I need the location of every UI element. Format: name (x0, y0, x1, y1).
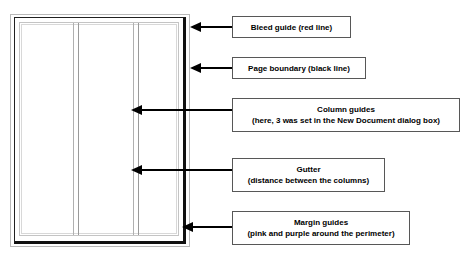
arrow-to-bleed-guide (190, 22, 232, 32)
column-guide-line-2a (133, 23, 134, 235)
column-guide-line-1a (73, 23, 74, 235)
callout-gutter: Gutter (distance between the columns) (232, 158, 385, 192)
margin-guide-inner-rect (21, 24, 177, 234)
callout-gutter-line2: (distance between the columns) (248, 175, 369, 186)
callout-column-guides-line1: Column guides (317, 104, 375, 115)
callout-page-boundary-line1: Page boundary (black line) (248, 63, 350, 74)
callout-margin-guides-line1: Margin guides (294, 217, 348, 228)
callout-column-guides: Column guides (here, 3 was set in the Ne… (232, 98, 460, 132)
column-guide-line-1b (78, 23, 79, 235)
callout-bleed-guide: Bleed guide (red line) (232, 16, 351, 38)
callout-margin-guides: Margin guides (pink and purple around th… (232, 211, 410, 245)
diagram-canvas: Bleed guide (red line) Page boundary (bl… (0, 0, 472, 259)
arrow-to-page-boundary (190, 63, 232, 73)
page-layout-diagram (10, 14, 190, 247)
callout-gutter-line1: Gutter (297, 164, 321, 175)
column-guide-line-2b (138, 23, 139, 235)
callout-page-boundary: Page boundary (black line) (232, 57, 366, 79)
callout-margin-guides-line2: (pink and purple around the perimeter) (247, 228, 394, 239)
callout-column-guides-line2: (here, 3 was set in the New Document dia… (252, 115, 440, 126)
callout-bleed-guide-line1: Bleed guide (red line) (251, 22, 332, 33)
